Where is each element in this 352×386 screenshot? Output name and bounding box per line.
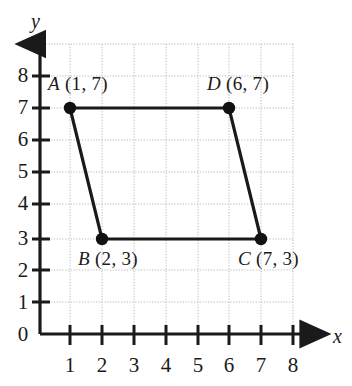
y-tick-label-4: 4: [14, 193, 32, 214]
vertex-label-d: D (6, 7): [207, 73, 269, 95]
y-tick-label-7: 7: [14, 97, 32, 118]
coordinate-plane-figure: y x 0 8 7 6 5 4 3 2 1 1 2 3 4 5 6 7 8 A …: [0, 0, 352, 386]
plot-canvas: [0, 0, 352, 386]
origin-tick-label: 0: [14, 324, 32, 345]
vertex-label-c-coords: (7, 3): [251, 248, 299, 269]
vertex-point-d: [223, 102, 235, 114]
vertex-label-c: C (7, 3): [238, 248, 299, 270]
vertex-point-a: [64, 102, 76, 114]
x-tick-label-2: 2: [93, 355, 111, 376]
vertex-label-c-name: C: [238, 248, 251, 269]
y-tick-label-1: 1: [14, 292, 32, 313]
vertex-label-a: A (1, 7): [48, 73, 108, 95]
vertex-point-c: [255, 233, 267, 245]
x-tick-label-6: 6: [220, 355, 238, 376]
y-tick-label-5: 5: [14, 161, 32, 182]
y-tick-label-6: 6: [14, 129, 32, 150]
vertex-point-b: [96, 233, 108, 245]
vertex-label-a-name: A: [48, 73, 60, 94]
vertex-label-d-name: D: [207, 73, 221, 94]
vertex-label-b: B (2, 3): [78, 248, 138, 270]
x-axis-label: x: [333, 325, 342, 348]
x-tick-label-4: 4: [157, 355, 175, 376]
vertex-label-a-coords: (1, 7): [60, 73, 108, 94]
y-tick-label-2: 2: [14, 260, 32, 281]
x-tick-label-5: 5: [189, 355, 207, 376]
x-tick-label-1: 1: [61, 355, 79, 376]
y-tick-label-3: 3: [14, 228, 32, 249]
vertex-label-b-name: B: [78, 248, 90, 269]
vertex-label-b-coords: (2, 3): [90, 248, 138, 269]
y-axis-label: y: [31, 10, 40, 33]
vertex-label-d-coords: (6, 7): [221, 73, 269, 94]
x-tick-label-7: 7: [252, 355, 270, 376]
x-tick-label-3: 3: [125, 355, 143, 376]
y-tick-label-8: 8: [14, 65, 32, 86]
x-tick-label-8: 8: [284, 355, 302, 376]
